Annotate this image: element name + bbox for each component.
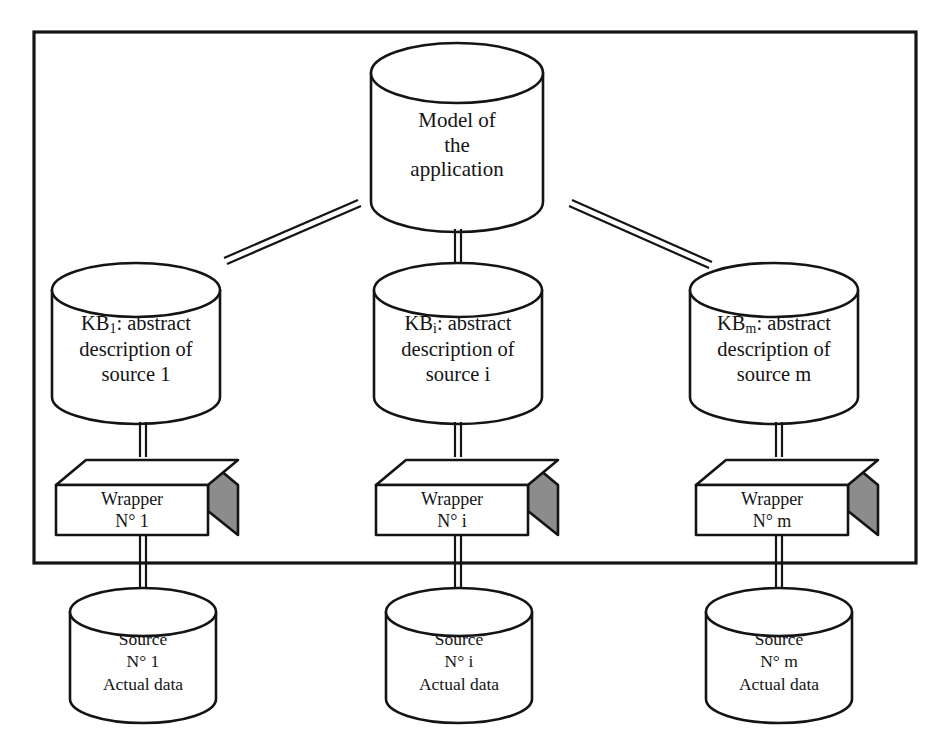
kb-1-label: KB1: abstract description of source 1 <box>40 311 232 387</box>
wrapper-m-label-line2: N° m <box>696 511 848 533</box>
kb-i-line1-rest: : abstract <box>437 312 512 334</box>
kb-1-label-line2: description of <box>40 337 232 362</box>
kb-i-prefix: KB <box>405 312 433 334</box>
model-label-line3: application <box>357 157 557 182</box>
architecture-diagram: Model of the application KB1: abstract d… <box>0 0 948 746</box>
kb-m-prefix: KB <box>717 312 745 334</box>
wrapper-m-label: Wrapper N° m <box>696 489 848 532</box>
model-label-line2: the <box>357 133 557 158</box>
kb-i-label-line2: description of <box>362 337 554 362</box>
kb-1-label-line3: source 1 <box>40 362 232 387</box>
wrapper-i-label-line2: N° i <box>376 511 528 533</box>
kb-i-label-line1: KBi: abstract <box>362 311 554 337</box>
source-i-label-line2: N° i <box>386 650 532 672</box>
connector-model-to-kb-i <box>455 229 461 262</box>
wrapper-1-label-line1: Wrapper <box>56 489 208 511</box>
source-1-label-line1: Source <box>70 628 216 650</box>
source-i-label-line1: Source <box>386 628 532 650</box>
kb-m-label-line2: description of <box>678 337 870 362</box>
kb-m-subscript: m <box>746 321 757 336</box>
kb-m-label-line3: source m <box>678 362 870 387</box>
connector-model-to-kb-m <box>569 200 712 268</box>
source-m-label-line3: Actual data <box>706 673 852 695</box>
model-label-line1: Model of <box>357 108 557 133</box>
wrapper-1-label: Wrapper N° 1 <box>56 489 208 532</box>
wrapper-m-label-line1: Wrapper <box>696 489 848 511</box>
model-label: Model of the application <box>357 108 557 182</box>
source-m-label-line2: N° m <box>706 650 852 672</box>
source-m-label: Source N° m Actual data <box>706 628 852 695</box>
source-1-label-line2: N° 1 <box>70 650 216 672</box>
kb-i-label: KBi: abstract description of source i <box>362 311 554 387</box>
connector-kb-1-to-wrapper-1 <box>140 422 146 457</box>
kb-m-line1-rest: : abstract <box>756 312 831 334</box>
kb-1-label-line1: KB1: abstract <box>40 311 232 337</box>
kb-1-prefix: KB <box>81 312 109 334</box>
source-i-label-line3: Actual data <box>386 673 532 695</box>
wrapper-i-label: Wrapper N° i <box>376 489 528 532</box>
source-i-label: Source N° i Actual data <box>386 628 532 695</box>
kb-m-label-line1: KBm: abstract <box>678 311 870 337</box>
kb-m-label: KBm: abstract description of source m <box>678 311 870 387</box>
kb-1-line1-rest: : abstract <box>116 312 191 334</box>
source-1-label: Source N° 1 Actual data <box>70 628 216 695</box>
connector-kb-m-to-wrapper-m <box>776 422 782 457</box>
source-1-label-line3: Actual data <box>70 673 216 695</box>
connector-model-to-kb-1 <box>224 200 361 264</box>
kb-i-label-line3: source i <box>362 362 554 387</box>
wrapper-i-label-line1: Wrapper <box>376 489 528 511</box>
source-m-label-line1: Source <box>706 628 852 650</box>
connector-kb-i-to-wrapper-i <box>455 422 461 457</box>
wrapper-1-label-line2: N° 1 <box>56 511 208 533</box>
